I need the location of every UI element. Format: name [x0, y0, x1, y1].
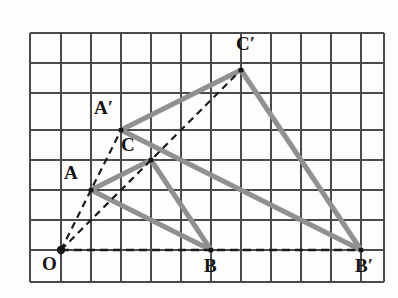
vertex-dot-A	[88, 187, 93, 192]
vertex-dot-B	[208, 247, 213, 252]
vertex-dot-B-prime	[358, 247, 363, 252]
point-label-C: C	[121, 135, 135, 154]
figure-canvas	[0, 0, 398, 298]
vertex-dot-O	[57, 246, 65, 254]
dilation-figure: O A B C A′ B′ C′	[0, 0, 398, 298]
point-label-B: B	[204, 256, 217, 275]
vertex-dot-C-prime	[238, 67, 243, 72]
point-label-A: A	[64, 163, 78, 182]
point-label-B-prime: B′	[355, 256, 373, 275]
vertex-dot-C	[148, 157, 153, 162]
vertex-dot-A-prime	[118, 127, 123, 132]
point-label-O: O	[42, 254, 57, 273]
point-label-A-prime: A′	[94, 98, 113, 117]
point-label-C-prime: C′	[236, 34, 255, 53]
